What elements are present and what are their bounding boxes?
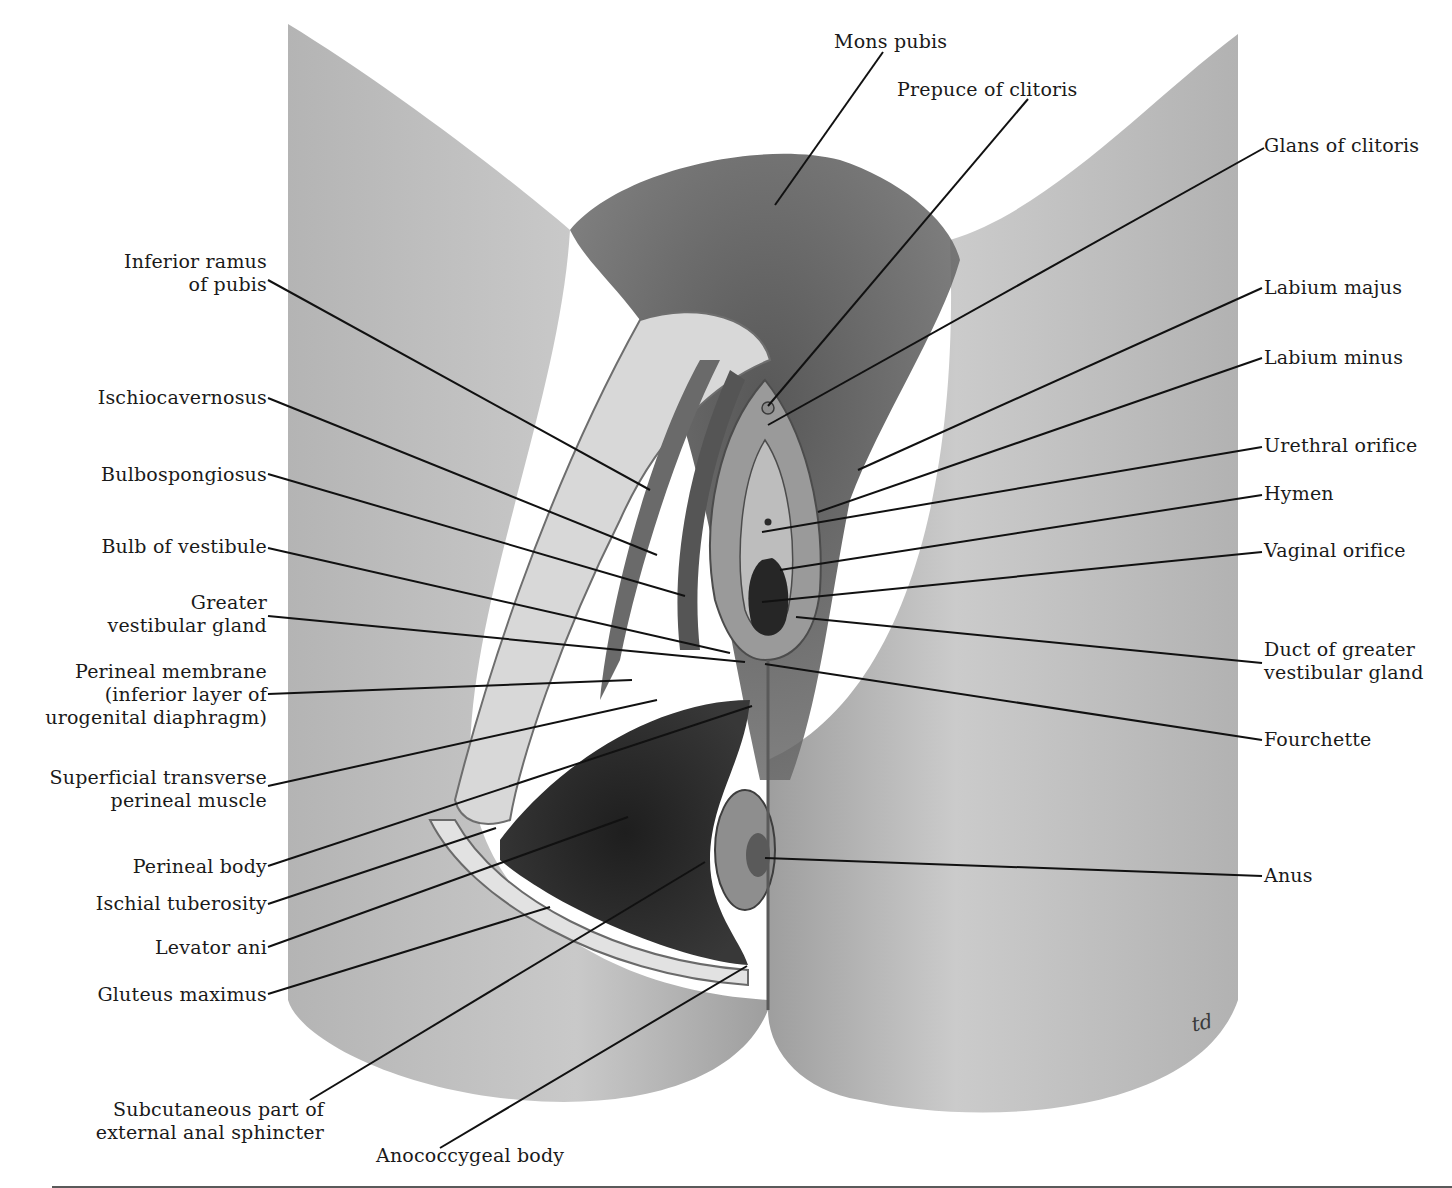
label-glans-of-clitoris: Glans of clitoris <box>1264 134 1419 157</box>
label-mons-pubis: Mons pubis <box>834 30 947 53</box>
label-ischial-tuberosity: Ischial tuberosity <box>96 892 267 915</box>
label-duct-of-greater-vestibular-gland: Duct of greater vestibular gland <box>1264 638 1424 684</box>
label-vaginal-orifice: Vaginal orifice <box>1264 539 1406 562</box>
label-perineal-body: Perineal body <box>133 855 267 878</box>
label-levator-ani: Levator ani <box>155 936 267 959</box>
label-inferior-ramus-of-pubis: Inferior ramus of pubis <box>124 250 267 296</box>
label-labium-majus: Labium majus <box>1264 276 1402 299</box>
label-subcutaneous-part-of-external-anal-sphincter: Subcutaneous part of external anal sphin… <box>96 1098 324 1144</box>
label-greater-vestibular-gland: Greater vestibular gland <box>107 591 267 637</box>
urethral-orifice-shape <box>765 519 772 526</box>
anus-shape <box>746 833 770 877</box>
label-labium-minus: Labium minus <box>1264 346 1403 369</box>
label-perineal-membrane: Perineal membrane (inferior layer of uro… <box>45 660 267 729</box>
label-urethral-orifice: Urethral orifice <box>1264 434 1418 457</box>
glans-shape <box>762 402 774 414</box>
label-anococcygeal-body: Anococcygeal body <box>376 1144 564 1167</box>
label-prepuce-of-clitoris: Prepuce of clitoris <box>897 78 1078 101</box>
label-bulbospongiosus: Bulbospongiosus <box>101 463 267 486</box>
label-anus: Anus <box>1264 864 1313 887</box>
label-hymen: Hymen <box>1264 482 1334 505</box>
label-ischiocavernosus: Ischiocavernosus <box>98 386 267 409</box>
label-gluteus-maximus: Gluteus maximus <box>97 983 267 1006</box>
label-superficial-transverse-perineal-muscle: Superficial transverse perineal muscle <box>49 766 267 812</box>
label-bulb-of-vestibule: Bulb of vestibule <box>101 535 267 558</box>
label-fourchette: Fourchette <box>1264 728 1372 751</box>
